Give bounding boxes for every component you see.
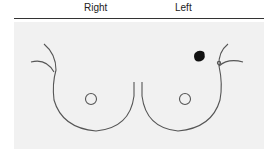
left-breast-outline (142, 44, 228, 131)
left-axilla-line (219, 61, 243, 66)
right-nipple-icon (86, 94, 97, 105)
breast-diagram: Right Left (0, 0, 276, 149)
right-breast-outline (44, 44, 134, 131)
right-axilla-line (31, 61, 54, 72)
left-nipple-icon (180, 94, 191, 105)
lesion-marker-icon (194, 51, 205, 62)
breast-outline-drawing (0, 0, 276, 149)
